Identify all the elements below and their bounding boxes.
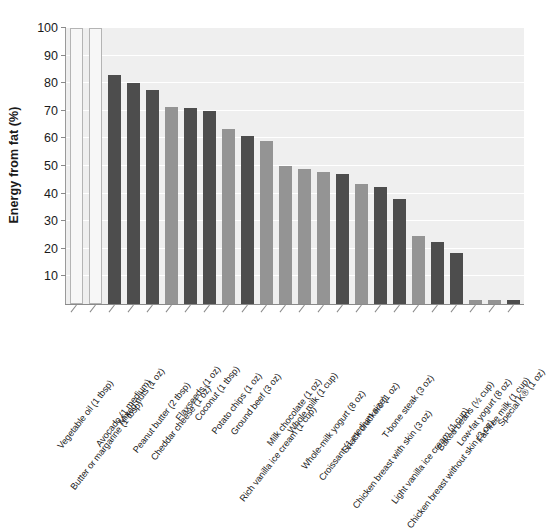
x-axis-labels: Vegetable oil (1 tbsp)Butter or margarin… bbox=[66, 312, 524, 482]
y-axis-title: Energy from fat (%) bbox=[2, 60, 26, 270]
y-axis-tick-label: 30 bbox=[44, 214, 58, 228]
x-axis-label-slot: Fat-free milk (1 cup) bbox=[485, 312, 504, 482]
x-axis-label-slot: Special K® (1 oz) bbox=[504, 312, 523, 482]
y-axis-tick-label: 50 bbox=[44, 159, 58, 173]
bar bbox=[222, 129, 236, 304]
x-axis-label-slot: Chicken breast with skin (3 oz) bbox=[371, 312, 390, 482]
bar-slot bbox=[504, 28, 523, 304]
bar bbox=[203, 111, 217, 304]
bar-slot bbox=[333, 28, 352, 304]
y-axis-tick bbox=[61, 27, 66, 28]
y-axis-tick bbox=[61, 248, 66, 249]
bar bbox=[279, 166, 293, 304]
y-axis-tick-label: 10 bbox=[44, 269, 58, 283]
bar bbox=[70, 28, 84, 304]
bar-slot bbox=[466, 28, 485, 304]
bar bbox=[298, 169, 312, 304]
x-axis-label-slot: Coconut (1 tbsp) bbox=[200, 312, 219, 482]
y-axis-tick-label: 60 bbox=[44, 131, 58, 145]
bar-slot bbox=[257, 28, 276, 304]
bar bbox=[108, 75, 122, 304]
x-axis-label-slot: Chicken breast without skin (3 oz) bbox=[428, 312, 447, 482]
x-axis-label-slot: Mixed nuts (1 oz) bbox=[124, 312, 143, 482]
x-axis-label-slot: Croissant (1 medium size) bbox=[333, 312, 352, 482]
x-axis-label-slot: Flaxseeds (1 oz) bbox=[181, 312, 200, 482]
bar-slot bbox=[352, 28, 371, 304]
y-axis-tick-label: 70 bbox=[44, 104, 58, 118]
bar bbox=[127, 83, 141, 304]
x-axis-label-slot: Whole-milk yogurt (8 oz) bbox=[314, 312, 333, 482]
bar-slot bbox=[447, 28, 466, 304]
x-axis-label-slot: Milk chocolate (1 oz) bbox=[276, 312, 295, 482]
x-axis-label-slot: Snack crackers (1 oz) bbox=[352, 312, 371, 482]
bar-slot bbox=[219, 28, 238, 304]
bar-slot bbox=[67, 28, 86, 304]
bar bbox=[146, 90, 160, 304]
x-axis-label-slot: Potato chips (1 oz) bbox=[219, 312, 238, 482]
x-axis-label-slot: Butter or margarine (1 tbsp) bbox=[86, 312, 105, 482]
x-axis-label-slot: Avocado (1 medium) bbox=[105, 312, 124, 482]
x-axis-label-slot: Low-fat yogurt (8 oz) bbox=[466, 312, 485, 482]
y-axis-tick-label: 80 bbox=[44, 76, 58, 90]
bar-slot bbox=[409, 28, 428, 304]
y-axis-tick-label: 40 bbox=[44, 187, 58, 201]
x-axis-label-slot: Rich vanilla ice cream (1 cup) bbox=[257, 312, 276, 482]
y-axis-tick bbox=[61, 55, 66, 56]
bar bbox=[89, 28, 103, 304]
bar-slot bbox=[371, 28, 390, 304]
bar-slot bbox=[314, 28, 333, 304]
x-axis-label-slot: Baked beans (½ cup) bbox=[447, 312, 466, 482]
y-axis-tick bbox=[61, 193, 66, 194]
bar bbox=[450, 253, 464, 304]
bar-slot bbox=[162, 28, 181, 304]
y-axis-tick bbox=[61, 165, 66, 166]
y-axis-tick bbox=[61, 275, 66, 276]
x-axis-label-slot: Ground beef (3 oz) bbox=[238, 312, 257, 482]
bar bbox=[431, 242, 445, 304]
y-axis-title-text: Energy from fat (%) bbox=[7, 106, 21, 223]
bar bbox=[260, 141, 274, 304]
y-axis-tick bbox=[61, 82, 66, 83]
y-axis-tick bbox=[61, 110, 66, 111]
bar-series bbox=[66, 28, 524, 304]
y-axis-tick-label: 20 bbox=[44, 242, 58, 256]
y-axis-tick bbox=[61, 220, 66, 221]
bar-slot bbox=[200, 28, 219, 304]
bar-slot bbox=[105, 28, 124, 304]
x-axis-label-slot: T-bone steak (3 oz) bbox=[390, 312, 409, 482]
bar-slot bbox=[143, 28, 162, 304]
bar-slot bbox=[86, 28, 105, 304]
y-axis-tick-label: 100 bbox=[37, 21, 58, 35]
plot-area bbox=[66, 28, 524, 304]
x-axis-label-slot: Light vanilla ice cream (1 cup) bbox=[409, 312, 428, 482]
bar bbox=[412, 236, 426, 304]
plot-frame: 102030405060708090100 bbox=[66, 28, 524, 304]
y-axis-line bbox=[65, 28, 66, 304]
bar bbox=[241, 136, 255, 304]
bar-slot bbox=[276, 28, 295, 304]
bar bbox=[165, 107, 179, 304]
bar bbox=[355, 184, 369, 304]
bar-slot bbox=[181, 28, 200, 304]
y-axis-tick bbox=[61, 137, 66, 138]
bar-slot bbox=[124, 28, 143, 304]
bar-slot bbox=[428, 28, 447, 304]
x-axis-label-slot: Cheddar cheese (1 oz) bbox=[162, 312, 181, 482]
bar bbox=[184, 108, 198, 304]
bar-slot bbox=[295, 28, 314, 304]
bar-slot bbox=[390, 28, 409, 304]
bar bbox=[317, 172, 331, 304]
bar bbox=[336, 174, 350, 304]
y-axis-tick-label: 90 bbox=[44, 49, 58, 63]
bar-slot bbox=[485, 28, 504, 304]
bar bbox=[374, 187, 388, 304]
x-axis-label-slot: Vegetable oil (1 tbsp) bbox=[67, 312, 86, 482]
bar-slot bbox=[238, 28, 257, 304]
bar bbox=[393, 199, 407, 304]
